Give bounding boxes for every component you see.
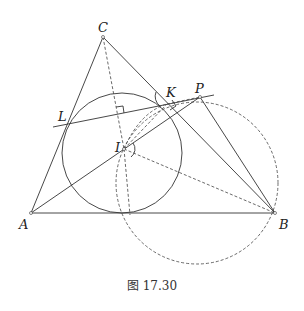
angle-arc-i bbox=[131, 143, 135, 157]
incircle bbox=[62, 93, 182, 213]
label-i: I bbox=[115, 141, 120, 154]
label-l: L bbox=[58, 110, 67, 123]
dashed-circle bbox=[116, 102, 278, 264]
side-ac bbox=[31, 37, 103, 213]
point-c bbox=[102, 36, 105, 39]
point-i bbox=[123, 148, 126, 151]
side-bc bbox=[103, 37, 275, 213]
segment-ik bbox=[124, 104, 167, 149]
label-k: K bbox=[166, 86, 176, 99]
right-angle-k bbox=[170, 100, 176, 110]
segment-ib bbox=[124, 149, 275, 213]
segment-pb bbox=[200, 97, 275, 213]
label-b: B bbox=[279, 218, 289, 231]
segment-i-down bbox=[124, 149, 130, 215]
point-a bbox=[30, 212, 33, 215]
label-p: P bbox=[195, 82, 204, 95]
geometry-figure bbox=[0, 0, 304, 311]
label-a: A bbox=[19, 218, 28, 231]
label-c: C bbox=[98, 21, 108, 34]
figure-caption: 图 17.30 bbox=[0, 276, 304, 293]
point-b bbox=[274, 212, 277, 215]
